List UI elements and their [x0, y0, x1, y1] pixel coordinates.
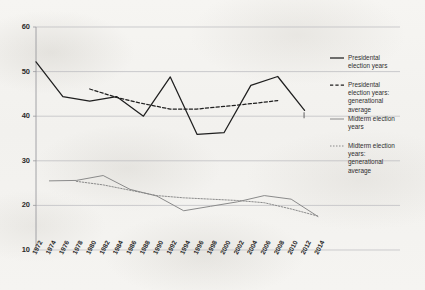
y-tick-60: 60 [22, 22, 30, 31]
legend-label-2[interactable]: Midterm electionyears [348, 115, 395, 131]
chart-page: 102030405060 197219741976197819801982198… [0, 0, 425, 290]
x-tick-2004: 2004 [246, 239, 259, 256]
x-tick-1996: 1996 [192, 239, 205, 256]
data-series-group [36, 62, 318, 217]
x-tick-2014: 2014 [313, 239, 326, 256]
legend-label-3[interactable]: Midterm electionyears:generationalaverag… [348, 142, 395, 175]
x-tick-1978: 1978 [71, 239, 84, 256]
x-tick-1976: 1976 [58, 239, 71, 256]
series-line-0 [36, 62, 305, 135]
x-tick-2000: 2000 [219, 239, 232, 256]
y-tick-40: 40 [22, 111, 30, 120]
x-tick-2008: 2008 [272, 239, 285, 256]
y-axis-tick-labels: 102030405060 [22, 22, 36, 254]
x-tick-1982: 1982 [98, 239, 111, 256]
x-axis-tick-labels: 1972197419761978198019821984198619881990… [31, 239, 326, 256]
x-tick-1994: 1994 [178, 239, 191, 256]
x-tick-1992: 1992 [165, 239, 178, 256]
x-tick-1986: 1986 [125, 239, 138, 256]
x-tick-2012: 2012 [299, 239, 312, 256]
x-tick-2006: 2006 [259, 239, 272, 256]
legend-label-1[interactable]: Presidentalelection years:generationalav… [348, 81, 389, 114]
x-tick-1984: 1984 [111, 239, 124, 256]
x-tick-1990: 1990 [152, 239, 165, 256]
line-chart: 102030405060 197219741976197819801982198… [0, 0, 425, 290]
y-tick-50: 50 [22, 67, 30, 76]
chart-legend: Presidentalelection yearsPresidentalelec… [330, 54, 395, 175]
gridlines [36, 27, 400, 250]
x-tick-1988: 1988 [138, 239, 151, 256]
series-line-3 [76, 181, 318, 216]
x-tick-1974: 1974 [44, 239, 57, 256]
x-tick-1998: 1998 [205, 239, 218, 256]
y-tick-30: 30 [22, 156, 30, 165]
x-tick-1972: 1972 [31, 239, 44, 256]
series-line-2 [49, 176, 318, 217]
x-tick-2010: 2010 [286, 239, 299, 256]
y-tick-10: 10 [22, 245, 30, 254]
x-tick-2002: 2002 [232, 239, 245, 256]
y-tick-20: 20 [22, 200, 30, 209]
legend-label-0[interactable]: Presidentalelection years [348, 54, 387, 70]
x-tick-1980: 1980 [84, 239, 97, 256]
